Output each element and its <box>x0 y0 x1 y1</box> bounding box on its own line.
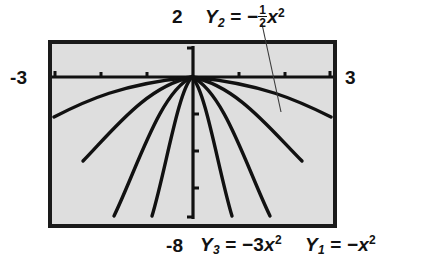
curve-label-y1-variable: x <box>358 234 369 255</box>
curve-label-y1-sign: − <box>347 234 358 255</box>
plot-area <box>52 44 333 224</box>
curve-label-y2-denominator: 2 <box>258 16 267 29</box>
graph-figure: 2 -3 3 -8 Y2 = −12x2 Y3 = −3x2 Y1 = −x2 <box>0 0 427 274</box>
curve-label-y2-equals: = <box>230 6 241 27</box>
curve-label-y3-equals: = <box>225 234 236 255</box>
curve-label-y2-sign: − <box>247 6 258 27</box>
y-axis-max-label: 2 <box>172 7 183 26</box>
curve-label-y1-exponent: 2 <box>369 233 376 247</box>
curve-label-y1-name: Y <box>305 234 318 255</box>
curve-label-y3-subscript: 3 <box>213 243 220 257</box>
curve-label-y3-exponent: 2 <box>275 233 282 247</box>
curve-label-y2-exponent: 2 <box>278 6 285 20</box>
curve-label-y2-name: Y <box>205 6 218 27</box>
curve-label-y2-subscript: 2 <box>218 16 225 30</box>
curve-label-y2-numerator: 1 <box>258 4 267 16</box>
curve-label-y3-sign: − <box>242 234 253 255</box>
calculator-screen <box>48 40 337 228</box>
curve-label-y3-variable: x <box>264 234 275 255</box>
curve-label-y2-fraction: 12 <box>258 4 267 29</box>
curve-label-y2: Y2 = −12x2 <box>205 4 285 29</box>
curve-label-y3-coefficient: 3 <box>253 234 264 255</box>
curve-label-y1: Y1 = −x2 <box>305 234 376 256</box>
y-axis-min-label: -8 <box>166 236 183 255</box>
curve-label-y1-subscript: 1 <box>318 243 325 257</box>
x-axis-min-label: -3 <box>10 68 27 87</box>
curve-label-y3-name: Y <box>200 234 213 255</box>
curve-label-y3: Y3 = −3x2 <box>200 234 282 256</box>
x-axis-max-label: 3 <box>345 68 356 87</box>
curve-label-y2-variable: x <box>267 6 278 27</box>
curve-label-y1-equals: = <box>330 234 341 255</box>
